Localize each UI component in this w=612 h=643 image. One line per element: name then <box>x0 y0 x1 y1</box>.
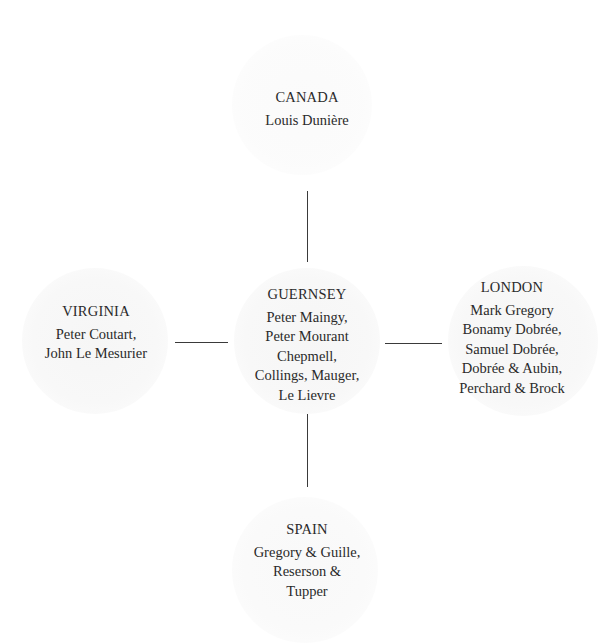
person-line: Reserson & <box>254 562 361 582</box>
place-label: VIRGINIA <box>45 302 147 322</box>
connector-south <box>307 414 308 487</box>
person-line: Le Lievre <box>255 386 360 406</box>
node-guernsey: GUERNSEY Peter Maingy, Peter Mourant Che… <box>255 285 360 405</box>
person-line: Bonamy Dobrée, <box>459 320 565 340</box>
person-line: Peter Coutart, <box>45 325 147 345</box>
person-line: Dobrée & Aubin, <box>459 359 565 379</box>
person-line: Peter Maingy, <box>255 308 360 328</box>
connector-north <box>307 191 308 262</box>
person-line: Perchard & Brock <box>459 379 565 399</box>
person-line: Mark Gregory <box>459 301 565 321</box>
node-virginia: VIRGINIA Peter Coutart, John Le Mesurier <box>45 302 147 364</box>
person-line: Peter Mourant <box>255 327 360 347</box>
connector-west <box>175 342 228 343</box>
person-line: Chepmell, <box>255 347 360 367</box>
node-spain: SPAIN Gregory & Guille, Reserson & Tuppe… <box>254 520 361 601</box>
place-label: LONDON <box>459 278 565 298</box>
person-line: Tupper <box>254 582 361 602</box>
place-label: GUERNSEY <box>255 285 360 305</box>
connector-east <box>385 343 442 344</box>
person-line: Samuel Dobrée, <box>459 340 565 360</box>
person-line: Collings, Mauger, <box>255 366 360 386</box>
person-line: Louis Dunière <box>265 111 348 131</box>
node-canada: CANADA Louis Dunière <box>265 88 348 130</box>
place-label: CANADA <box>265 88 348 108</box>
node-london: LONDON Mark Gregory Bonamy Dobrée, Samue… <box>459 278 565 398</box>
person-line: Gregory & Guille, <box>254 543 361 563</box>
person-line: John Le Mesurier <box>45 344 147 364</box>
place-label: SPAIN <box>254 520 361 540</box>
